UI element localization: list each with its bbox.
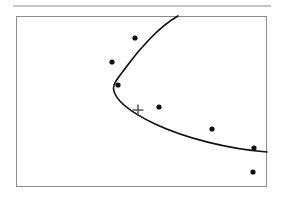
data-point	[209, 126, 214, 131]
figure-container	[0, 0, 283, 202]
data-point	[109, 59, 114, 64]
data-point	[250, 169, 255, 174]
data-point	[132, 35, 137, 40]
data-point	[251, 145, 256, 150]
data-point	[156, 104, 161, 109]
data-point	[115, 82, 120, 87]
plot-border	[17, 17, 267, 187]
scatter-plot-figure	[0, 0, 283, 202]
